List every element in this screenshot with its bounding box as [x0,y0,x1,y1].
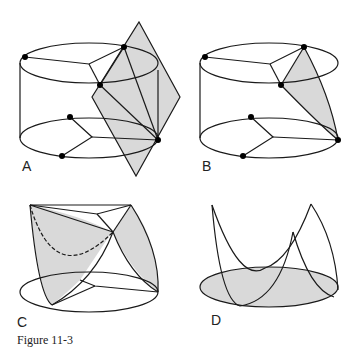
panel-b-drawing [200,43,341,159]
panel-label-a: A [22,158,31,174]
panel-label-d: D [211,312,221,328]
panel-c-drawing [20,205,158,312]
panel-a-drawing [20,22,180,176]
figure-caption: Figure 11-3 [17,333,73,348]
panel-label-c: C [17,314,27,330]
base-ellipse [200,267,338,307]
panel-label-b: B [202,158,211,174]
panel-d-drawing [200,204,338,307]
figure-canvas [0,0,361,352]
